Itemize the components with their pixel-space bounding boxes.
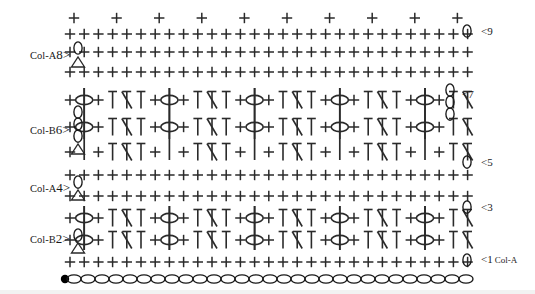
row-label-col-b-6: Col-B6> (30, 123, 70, 137)
chain-stitch-icon (446, 84, 454, 96)
row-label-number: 3 (487, 201, 493, 213)
row-label-col-a-4: Col-A4> (30, 181, 70, 195)
chain-stitch-icon (347, 275, 361, 283)
chain-stitch-icon (165, 275, 179, 283)
row-label-color: Col-B (30, 234, 56, 245)
chain-stitch-icon (137, 275, 151, 283)
chain-stitch-icon (179, 275, 193, 283)
chain-stitch-icon (333, 275, 347, 283)
chain-stitch-icon (417, 275, 431, 283)
chain-stitch-icon (74, 42, 82, 54)
row-label-color: Col-A (30, 183, 56, 194)
row-label-arrow-icon: > (63, 47, 70, 62)
chain-stitch-icon (277, 275, 291, 283)
chain-stitch-icon (305, 275, 319, 283)
row-label-col-a-8: Col-A8> (30, 48, 70, 62)
chain-stitch-icon (319, 275, 333, 283)
row-label-arrow-icon: > (63, 180, 70, 195)
chain-stitch-icon (123, 275, 137, 283)
stitch-diagram (0, 0, 535, 294)
chain-stitch-icon (74, 176, 82, 188)
row-label-number: 7 (468, 88, 474, 100)
chain-stitch-icon (403, 275, 417, 283)
row-label-col-b-2: Col-B2> (30, 232, 70, 246)
crochet-pattern-chart: Col-A8> Col-B6> Col-A4> Col-B2> <9 <7 <5… (0, 0, 535, 294)
row-label-right-5: <5 (481, 157, 493, 168)
row-label-right-3: <3 (481, 202, 493, 213)
chain-stitch-icon (389, 275, 403, 283)
bottom-divider (0, 290, 535, 294)
chain-stitch-icon (81, 275, 95, 283)
chain-stitch-icon (375, 275, 389, 283)
chain-stitch-icon (291, 275, 305, 283)
turning-chain-triangle-icon (72, 190, 85, 200)
chain-stitch-icon (193, 275, 207, 283)
chain-stitch-icon (95, 275, 109, 283)
row-label-color: Col-B (30, 125, 56, 136)
chain-stitch-icon (151, 275, 165, 283)
row-label-right-9: <9 (481, 26, 493, 37)
chain-stitch-icon (445, 275, 459, 283)
chain-stitch-icon (459, 275, 473, 283)
chain-stitch-icon (74, 106, 82, 118)
chain-stitch-icon (361, 275, 375, 283)
turning-chain-triangle-icon (72, 57, 85, 67)
chain-stitch-icon (207, 275, 221, 283)
row-label-number: 1 (487, 253, 493, 265)
chain-stitch-icon (263, 275, 277, 283)
row-label-right-1: <1Col-A (481, 254, 517, 265)
chain-stitch-icon (221, 275, 235, 283)
chain-stitch-icon (249, 275, 263, 283)
row-label-right-7: <7 (462, 89, 474, 100)
chain-stitch-icon (109, 275, 123, 283)
row-label-number: 9 (487, 25, 493, 37)
chain-stitch-icon (74, 130, 82, 142)
row-label-color: Col-A (30, 50, 56, 61)
chain-stitch-icon (431, 275, 445, 283)
row-label-color: Col-A (495, 255, 518, 265)
chain-stitch-icon (235, 275, 249, 283)
row-label-arrow-icon: > (62, 122, 69, 137)
row-label-arrow-icon: > (62, 231, 69, 246)
row-label-number: 5 (487, 156, 493, 168)
